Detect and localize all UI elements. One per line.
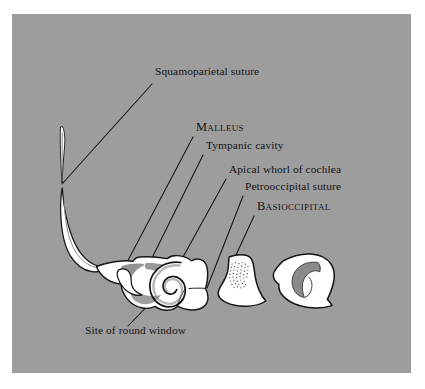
label-basioccipital: Basioccipital bbox=[257, 200, 331, 212]
petrosal-body bbox=[97, 256, 209, 311]
label-malleus: Malleus bbox=[196, 121, 244, 133]
basioccipital-element bbox=[218, 255, 266, 307]
leader-squamoparietal-suture bbox=[62, 84, 152, 184]
leader-malleus bbox=[124, 137, 193, 268]
label-tympanic-cavity: Tympanic cavity bbox=[206, 139, 284, 151]
label-petrooccipital-suture: Petrooccipital suture bbox=[245, 180, 341, 192]
label-site-of-round-window: Site of round window bbox=[85, 324, 186, 336]
right-element bbox=[273, 254, 334, 308]
squamosal-process-sliver bbox=[60, 127, 65, 183]
zygomatic-process bbox=[61, 188, 110, 272]
figure-illustration bbox=[0, 0, 425, 389]
label-squamoparietal-suture: Squamoparietal suture bbox=[155, 65, 259, 77]
figure-root: Squamoparietal suture Malleus Tympanic c… bbox=[0, 0, 425, 389]
label-apical-whorl-of-cochlea: Apical whorl of cochlea bbox=[229, 163, 341, 175]
leader-tympanic-cavity bbox=[148, 155, 203, 266]
